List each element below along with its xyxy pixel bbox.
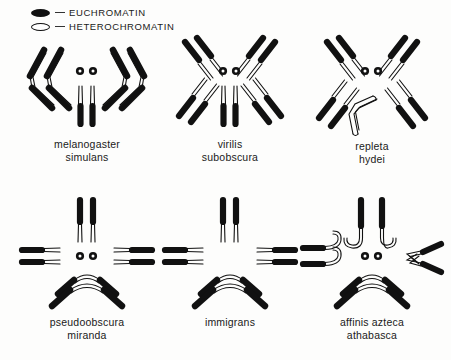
chromosome-rod-right-2 xyxy=(257,260,295,264)
chromosome-rod-center-1 xyxy=(222,86,226,124)
karyotype-group-immigrans: immigrans xyxy=(155,192,305,342)
chromosome-rod-top-1 xyxy=(78,200,82,242)
species-name-repleta: repleta xyxy=(297,140,447,153)
chromosome-rod-left-2 xyxy=(165,260,203,264)
chromosome-rod-center-1 xyxy=(79,86,83,124)
species-name-subobscura: subobscura xyxy=(155,151,305,164)
chromosome-rod-ul-1 xyxy=(185,42,213,80)
species-name-virilis: virilis xyxy=(155,138,305,151)
euchromatin-symbol-icon xyxy=(28,7,52,18)
species-name-melanogaster: melanogaster xyxy=(12,138,162,151)
caption-melanogaster: melanogaster simulans xyxy=(12,138,162,163)
caption-pseudoobscura: pseudoobscura miranda xyxy=(12,316,162,341)
figure-canvas: EUCHROMATIN HETEROCHROMATIN xyxy=(0,0,451,360)
caption-immigrans: immigrans xyxy=(155,316,305,329)
chromosome-rod-top-2 xyxy=(91,200,95,242)
chromosome-rod-right-1 xyxy=(114,248,152,252)
chromosome-rod-center-2 xyxy=(234,86,238,124)
dot-chromosome-pair xyxy=(76,252,97,260)
chromosome-diagram-melanogaster xyxy=(12,30,162,140)
chromosome-hook-top-1 xyxy=(344,200,363,248)
chromosome-hook-right-2 xyxy=(407,254,441,272)
chromosome-diagram-virilis xyxy=(155,30,305,140)
species-name-immigrans: immigrans xyxy=(155,316,305,329)
chromosome-v-left-2 xyxy=(47,50,71,108)
chromosome-rod-left-1 xyxy=(165,248,203,252)
chromosome-v-right-2 xyxy=(103,50,127,108)
chromosome-rod-ur-1 xyxy=(389,42,417,80)
legend-label-euchromatin: EUCHROMATIN xyxy=(69,7,146,18)
dot-chromosome-pair xyxy=(361,252,382,260)
legend-dash-icon xyxy=(55,26,65,27)
karyotype-group-pseudoobscura: pseudoobscura miranda xyxy=(12,192,162,342)
chromosome-rod-left-1 xyxy=(22,248,60,252)
species-name-affinis-azteca: affinis azteca xyxy=(297,316,447,329)
dot-chromosome-pair xyxy=(76,67,97,75)
chromosome-rod-left-2 xyxy=(22,260,60,264)
chromosome-hook-top-2 xyxy=(381,200,397,248)
chromosome-rod-top-1 xyxy=(221,200,225,242)
caption-virilis: virilis subobscura xyxy=(155,138,305,163)
chromosome-diagram-pseudoobscura xyxy=(12,192,162,318)
caption-affinis: affinis azteca athabasca xyxy=(297,316,447,341)
species-name-pseudoobscura: pseudoobscura xyxy=(12,316,162,329)
chromosome-diagram-affinis xyxy=(297,192,447,318)
karyotype-group-repleta: repleta hydei xyxy=(297,30,447,180)
chromosome-rod-center-2 xyxy=(91,86,95,124)
chromosome-rod-top-2 xyxy=(234,200,238,242)
karyotype-group-affinis: affinis azteca athabasca xyxy=(297,192,447,342)
karyotype-group-virilis: virilis subobscura xyxy=(155,30,305,180)
karyotype-group-melanogaster: melanogaster simulans xyxy=(12,30,162,180)
chromosome-rod-right-2 xyxy=(114,260,152,264)
chromosome-rod-ul-1 xyxy=(327,42,355,80)
species-name-hydei: hydei xyxy=(297,153,447,166)
chromosome-heterochromatic-v xyxy=(349,96,377,136)
legend-dash-icon xyxy=(55,12,65,13)
species-name-simulans: simulans xyxy=(12,151,162,164)
species-name-athabasca: athabasca xyxy=(297,329,447,342)
dot-chromosome-pair xyxy=(361,67,382,75)
legend-item-euchromatin: EUCHROMATIN xyxy=(28,6,218,19)
species-name-miranda: miranda xyxy=(12,329,162,342)
caption-repleta: repleta hydei xyxy=(297,140,447,165)
dot-chromosome-pair xyxy=(219,67,240,75)
chromosome-rod-ur-1 xyxy=(247,42,275,80)
chromosome-rod-lr-2 xyxy=(385,88,413,126)
chromosome-rod-right-1 xyxy=(257,248,295,252)
chromosome-diagram-immigrans xyxy=(155,192,305,318)
chromosome-diagram-repleta xyxy=(297,30,447,142)
